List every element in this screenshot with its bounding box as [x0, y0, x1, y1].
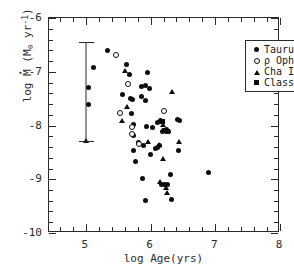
data-point-triangle — [157, 179, 163, 184]
x-tick-label-5: 5 — [82, 239, 89, 250]
x-tick-minor-top — [176, 18, 177, 22]
y-axis-label-yr: yr — [21, 25, 34, 45]
data-point-filled-circle — [150, 125, 155, 130]
legend-item-square: Class I Taurus — [252, 77, 294, 88]
data-point-filled-circle — [129, 111, 134, 116]
y-tick-minor — [49, 201, 53, 202]
scatter-plot-figure: Taurusρ OphCha IClass I Taurus 5678 -6-7… — [0, 0, 294, 274]
y-tick-major-right--10 — [271, 233, 278, 234]
y-axis-label-open: ( — [21, 56, 34, 69]
legend-symbol-square — [254, 80, 259, 85]
y-tick-minor-right — [274, 136, 278, 137]
x-tick-major-top-6 — [151, 18, 152, 25]
legend-item-triangle: Cha I — [252, 66, 294, 77]
y-axis-label-msun: M — [21, 49, 34, 56]
y-tick-major--8 — [49, 126, 56, 127]
y-tick-minor-right — [274, 158, 278, 159]
data-point-square — [165, 129, 170, 134]
x-tick-major-7 — [215, 224, 216, 231]
y-tick-minor — [49, 158, 53, 159]
x-tick-label-7: 7 — [211, 239, 218, 250]
y-tick-minor-right — [274, 201, 278, 202]
data-point-triangle — [124, 104, 130, 109]
y-tick-major--7 — [49, 72, 56, 73]
x-tick-minor-top — [267, 18, 268, 22]
y-tick-minor-right — [274, 190, 278, 191]
legend-item-filled-circle: Taurus — [252, 44, 294, 55]
y-tick-major-right--9 — [271, 179, 278, 180]
x-tick-minor — [228, 227, 229, 231]
x-tick-minor-top — [241, 18, 242, 22]
y-tick-minor — [49, 61, 53, 62]
x-tick-minor — [164, 227, 165, 231]
legend-label: ρ Oph — [264, 55, 294, 66]
y-tick-minor-right — [274, 169, 278, 170]
x-tick-minor-top — [189, 18, 190, 22]
y-axis-label-log: log — [21, 83, 34, 103]
data-point-triangle — [176, 139, 182, 144]
y-tick-minor — [49, 40, 53, 41]
y-tick-minor-right — [274, 222, 278, 223]
data-point-triangle — [160, 156, 166, 161]
data-point-filled-circle — [144, 124, 149, 129]
data-point-filled-circle — [143, 198, 148, 203]
y-tick-minor — [49, 147, 53, 148]
x-tick-minor — [112, 227, 113, 231]
legend-box: Taurusρ OphCha IClass I Taurus — [245, 40, 294, 92]
x-tick-minor-top — [99, 18, 100, 22]
x-tick-minor-top — [73, 18, 74, 22]
y-tick-label--10: -10 — [8, 227, 42, 238]
data-point-filled-circle — [148, 152, 153, 157]
y-tick-minor — [49, 190, 53, 191]
y-tick-minor — [49, 29, 53, 30]
x-tick-minor-top — [60, 18, 61, 22]
x-tick-minor — [73, 227, 74, 231]
data-point-triangle — [122, 68, 128, 73]
data-point-filled-circle — [133, 159, 138, 164]
x-tick-minor — [176, 227, 177, 231]
x-tick-major-top-7 — [215, 18, 216, 25]
data-point-filled-circle — [145, 70, 150, 75]
x-tick-minor — [60, 227, 61, 231]
y-tick-minor — [49, 211, 53, 212]
x-tick-major-5 — [86, 224, 87, 231]
error-bar-cap-top — [79, 42, 94, 43]
x-axis-label: log Age(yrs) — [48, 253, 279, 265]
x-tick-minor-top — [112, 18, 113, 22]
data-point-filled-circle — [176, 148, 181, 153]
data-point-triangle — [145, 139, 151, 144]
error-bar-stem — [86, 42, 87, 141]
x-tick-major-top-5 — [86, 18, 87, 25]
x-tick-minor — [99, 227, 100, 231]
y-axis-label: log M (M⊙ yr-1) — [20, 0, 37, 133]
y-tick-label--9: -9 — [8, 173, 42, 184]
x-tick-minor — [267, 227, 268, 231]
data-point-filled-circle — [105, 48, 110, 53]
x-tick-label-6: 6 — [146, 239, 153, 250]
data-point-filled-circle — [140, 176, 145, 181]
legend-symbol-triangle — [254, 70, 260, 75]
plot-frame: Taurusρ OphCha IClass I Taurus — [48, 17, 279, 232]
data-point-filled-circle — [177, 118, 182, 123]
legend-label: Taurus — [264, 44, 294, 55]
y-tick-minor — [49, 169, 53, 170]
y-tick-minor — [49, 50, 53, 51]
x-tick-minor-top — [202, 18, 203, 22]
data-point-triangle — [169, 89, 175, 94]
data-point-filled-circle — [147, 86, 152, 91]
x-tick-minor — [125, 227, 126, 231]
x-tick-major-8 — [280, 224, 281, 231]
legend-label: Class I Taurus — [264, 77, 294, 88]
data-point-triangle — [156, 142, 162, 147]
data-point-open-circle — [161, 108, 167, 114]
legend-label: Cha I — [264, 66, 294, 77]
data-point-filled-circle — [143, 98, 148, 103]
y-tick-minor-right — [274, 93, 278, 94]
x-tick-minor — [202, 227, 203, 231]
y-tick-major-right--6 — [271, 18, 278, 19]
y-axis-label-exponent: -1 — [21, 15, 30, 25]
y-tick-minor — [49, 83, 53, 84]
y-tick-major--10 — [49, 233, 56, 234]
y-tick-minor — [49, 104, 53, 105]
data-point-filled-circle — [131, 148, 136, 153]
